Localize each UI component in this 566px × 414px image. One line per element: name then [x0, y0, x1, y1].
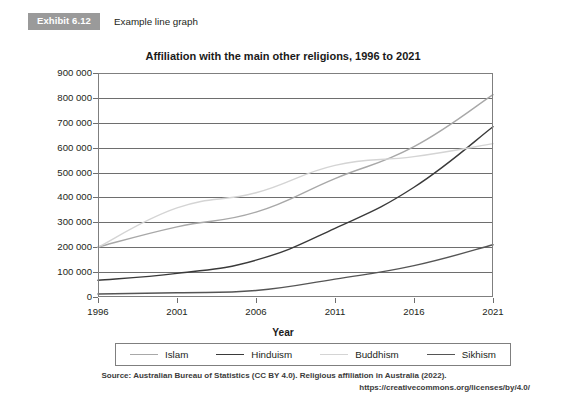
x-tick-mark [414, 298, 415, 303]
legend-label: Hinduism [251, 349, 292, 360]
line-chart-figure: Affiliation with the main other religion… [0, 40, 566, 414]
y-tick-label: 100 000 [32, 267, 92, 277]
legend-label: Buddhism [355, 349, 399, 360]
x-tick-label: 1996 [68, 307, 128, 317]
y-tick-label: 200 000 [32, 242, 92, 252]
source-line-2: https://creativecommons.org/licenses/by/… [0, 382, 548, 394]
exhibit-number-badge: Exhibit 6.12 [28, 13, 100, 30]
legend-swatch-islam [130, 354, 158, 355]
x-axis-title: Year [0, 327, 566, 338]
chart-title: Affiliation with the main other religion… [0, 50, 566, 62]
legend-item-islam[interactable]: Islam [130, 349, 188, 360]
x-tick-label: 2016 [384, 307, 444, 317]
x-tick-mark [177, 298, 178, 303]
legend-item-hinduism[interactable]: Hinduism [216, 349, 292, 360]
y-tick-label: 700 000 [32, 118, 92, 128]
legend-swatch-buddhism [320, 354, 348, 355]
y-tick-label: 500 000 [32, 168, 92, 178]
x-tick-label: 2001 [147, 307, 207, 317]
plot-area [98, 73, 493, 297]
y-tick-label: 900 000 [32, 68, 92, 78]
legend-item-sikhism[interactable]: Sikhism [427, 349, 496, 360]
legend-label: Islam [165, 349, 188, 360]
x-tick-label: 2006 [226, 307, 286, 317]
legend-swatch-sikhism [427, 354, 455, 355]
x-tick-label: 2021 [463, 307, 523, 317]
x-tick-label: 2011 [305, 307, 365, 317]
source-note: Source: Australian Bureau of Statistics … [0, 370, 566, 393]
legend-label: Sikhism [462, 349, 496, 360]
chart-legend: IslamHinduismBuddhismSikhism [115, 343, 511, 366]
x-tick-mark [98, 298, 99, 303]
x-tick-mark [493, 298, 494, 303]
y-tick-label: 0 [32, 292, 92, 302]
source-line-1: Source: Australian Bureau of Statistics … [101, 371, 446, 380]
legend-item-buddhism[interactable]: Buddhism [320, 349, 399, 360]
y-tick-label: 600 000 [32, 143, 92, 153]
y-tick-label: 800 000 [32, 93, 92, 103]
plot-frame-border [98, 73, 493, 297]
exhibit-caption-row: Exhibit 6.12 Example line graph [28, 13, 198, 30]
x-tick-mark [335, 298, 336, 303]
exhibit-caption-text: Example line graph [114, 16, 198, 27]
legend-swatch-hinduism [216, 354, 244, 355]
y-tick-label: 400 000 [32, 192, 92, 202]
y-tick-label: 300 000 [32, 217, 92, 227]
x-tick-mark [256, 298, 257, 303]
